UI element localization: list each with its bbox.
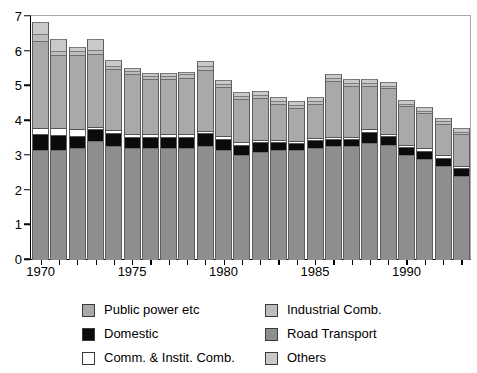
bar-segment-road-transport — [50, 150, 67, 260]
bar-segment-others — [453, 128, 470, 131]
x-axis-tick-label: 1970 — [26, 265, 55, 279]
bar-segment-road-transport — [87, 141, 104, 259]
bar-segment-public-power-etc — [124, 74, 141, 133]
bar-segment-industrial-comb — [197, 66, 214, 70]
bar-segment-industrial-comb — [252, 95, 269, 98]
bar-segment-road-transport — [416, 159, 433, 260]
legend-swatch-icon — [265, 328, 278, 341]
bar-segment-industrial-comb — [435, 121, 452, 124]
bar-segment-others — [343, 79, 360, 82]
bar-segment-industrial-comb — [453, 132, 470, 135]
bar-segment-domestic — [233, 146, 250, 155]
bar-segment-comm-instit-comb — [105, 130, 122, 134]
bar-1979 — [197, 61, 214, 260]
bar-1985 — [307, 97, 324, 259]
bar-segment-domestic — [453, 169, 470, 176]
bar-segment-public-power-etc — [380, 88, 397, 133]
bar-segment-domestic — [197, 134, 214, 146]
bar-segment-domestic — [105, 134, 122, 146]
y-axis-tick-label: 5 — [6, 79, 22, 92]
legend-item: Domestic — [82, 323, 158, 345]
bar-1990 — [398, 100, 415, 259]
bar-segment-domestic — [361, 133, 378, 143]
bar-segment-comm-instit-comb — [69, 129, 86, 137]
bar-1975 — [124, 67, 141, 259]
bar-segment-public-power-etc — [307, 104, 324, 139]
bar-segment-others — [307, 97, 324, 100]
bar-1974 — [105, 59, 122, 259]
bar-segment-comm-instit-comb — [233, 142, 250, 146]
y-axis-tick — [24, 189, 30, 191]
bar-segment-comm-instit-comb — [252, 140, 269, 143]
bar-segment-comm-instit-comb — [124, 134, 141, 138]
x-axis-tick — [461, 260, 462, 265]
bar-segment-road-transport — [178, 148, 195, 259]
legend-label: Industrial Comb. — [287, 303, 382, 317]
bar-segment-public-power-etc — [288, 108, 305, 141]
y-axis-tick-label: 4 — [6, 114, 22, 127]
bar-segment-public-power-etc — [197, 70, 214, 131]
bar-segment-domestic — [160, 138, 177, 148]
x-axis-tick — [150, 260, 151, 265]
bar-segment-road-transport — [105, 146, 122, 259]
y-axis-tick-label: 7 — [6, 9, 22, 22]
bar-segment-others — [270, 97, 287, 101]
legend-swatch-icon — [82, 328, 95, 341]
x-axis-tick — [96, 260, 97, 265]
bar-segment-comm-instit-comb — [197, 131, 214, 134]
bar-segment-industrial-comb — [288, 105, 305, 108]
bar-segment-industrial-comb — [124, 71, 141, 74]
bar-1972 — [69, 47, 86, 260]
bar-segment-industrial-comb — [325, 78, 342, 81]
legend-item: Public power etc — [82, 299, 199, 321]
bar-segment-road-transport — [69, 148, 86, 259]
bar-segment-domestic — [380, 137, 397, 145]
x-axis-tick — [443, 260, 444, 265]
x-axis-tick — [297, 260, 298, 265]
bar-segment-domestic — [87, 130, 104, 141]
bar-segment-road-transport — [124, 148, 141, 259]
bar-segment-domestic — [178, 138, 195, 148]
y-axis-tick-label: 2 — [6, 183, 22, 196]
bar-segment-comm-instit-comb — [32, 128, 49, 136]
x-axis-tick-label: 1980 — [209, 265, 238, 279]
bar-1993 — [453, 128, 470, 259]
bar-segment-road-transport — [435, 166, 452, 260]
legend-item: Industrial Comb. — [265, 299, 382, 321]
bar-segment-road-transport — [361, 143, 378, 260]
y-axis-tick — [24, 85, 30, 87]
y-axis-tick — [24, 50, 30, 52]
bar-segment-industrial-comb — [343, 83, 360, 86]
bar-1992 — [435, 118, 452, 260]
bar-1976 — [142, 73, 159, 259]
x-axis-tick — [59, 260, 60, 265]
bar-segment-industrial-comb — [215, 84, 232, 87]
bar-segment-public-power-etc — [50, 55, 67, 128]
x-axis-tick — [425, 260, 426, 265]
legend-item: Road Transport — [265, 323, 377, 345]
x-axis-tick — [77, 260, 78, 265]
bar-segment-comm-instit-comb — [87, 127, 104, 130]
x-axis-tick — [388, 260, 389, 265]
bar-1991 — [416, 107, 433, 259]
bar-segment-domestic — [32, 135, 49, 150]
bar-segment-road-transport — [197, 146, 214, 259]
bar-segment-domestic — [435, 159, 452, 166]
bar-segment-public-power-etc — [343, 86, 360, 136]
bar-segment-road-transport — [252, 152, 269, 260]
bar-segment-others — [288, 101, 305, 105]
bar-segment-industrial-comb — [270, 101, 287, 104]
chart-legend: Public power etcIndustrial Comb.Domestic… — [82, 299, 452, 369]
bar-segment-comm-instit-comb — [270, 140, 287, 143]
y-axis-tick-label: 3 — [6, 148, 22, 161]
x-axis-tick — [205, 260, 206, 265]
bar-segment-comm-instit-comb — [142, 134, 159, 138]
bar-segment-industrial-comb — [160, 76, 177, 79]
x-axis-tick — [242, 260, 243, 265]
bar-segment-comm-instit-comb — [416, 148, 433, 151]
bar-segment-public-power-etc — [325, 81, 342, 137]
bar-segment-public-power-etc — [398, 106, 415, 144]
bar-segment-public-power-etc — [69, 55, 86, 130]
bar-segment-road-transport — [453, 176, 470, 259]
legend-label: Others — [287, 351, 326, 365]
